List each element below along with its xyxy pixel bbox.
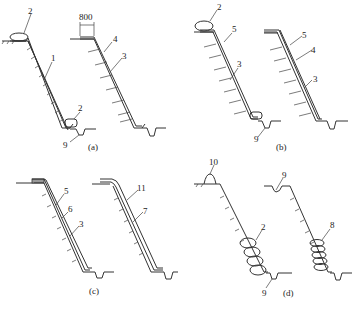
label-2: 2 [78, 103, 83, 113]
label-9: 9 [262, 288, 267, 298]
label-8: 8 [330, 220, 335, 230]
panel-a: 2 1 2 9 800 4 3 (a) [2, 6, 166, 152]
sandbag-icon [10, 33, 28, 41]
panel-d-right-slope [264, 178, 352, 280]
label-9: 9 [282, 170, 287, 180]
caption-a: (a) [88, 142, 98, 152]
panel-b-left-slope [194, 10, 281, 137]
panel-a-left-slope [2, 14, 96, 142]
label-5: 5 [302, 30, 307, 40]
label-3: 3 [79, 219, 84, 229]
sandbag-icon [250, 265, 266, 275]
label-3: 3 [122, 51, 127, 61]
caption-b: (b) [276, 142, 287, 152]
panel-c: 5 6 3 11 7 (c) [16, 179, 178, 296]
panel-d-left-slope [194, 165, 292, 288]
label-9: 9 [254, 134, 259, 144]
label-1: 1 [51, 53, 56, 63]
panel-c-right-slope [92, 179, 178, 279]
label-3: 3 [237, 59, 242, 69]
label-4: 4 [113, 34, 118, 44]
label-2: 2 [28, 6, 33, 16]
panel-b-right-slope [264, 30, 348, 129]
label-2: 2 [261, 222, 266, 232]
label-6: 6 [68, 204, 73, 214]
label-3: 3 [313, 74, 318, 84]
label-9: 9 [63, 140, 68, 150]
label-10: 10 [209, 157, 219, 167]
label-2: 2 [217, 2, 222, 12]
panel-a-right-slope [70, 22, 166, 136]
caption-d: (d) [283, 288, 294, 298]
label-5: 5 [232, 24, 237, 34]
ridge-icon [204, 174, 216, 184]
panel-b: 2 5 3 9 5 4 3 (b) [194, 2, 348, 152]
label-7: 7 [143, 206, 148, 216]
dimension-800: 800 [79, 12, 93, 22]
label-4: 4 [311, 45, 316, 55]
label-5: 5 [64, 186, 69, 196]
slope-protection-diagram: 2 1 2 9 800 4 3 (a) [0, 0, 356, 309]
sandbag-icon [247, 256, 263, 266]
panel-d: 10 2 9 9 8 (d) [194, 157, 352, 298]
sandbag-icon [65, 119, 77, 127]
label-11: 11 [137, 183, 146, 193]
caption-c: (c) [89, 286, 99, 296]
